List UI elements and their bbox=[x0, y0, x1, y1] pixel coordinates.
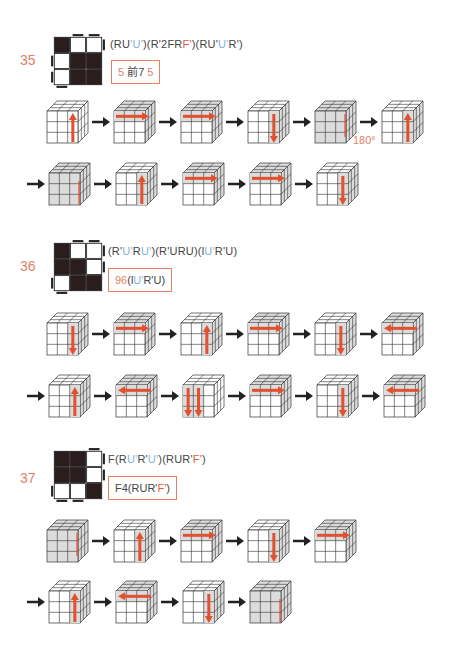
cube-step-icon bbox=[47, 578, 92, 626]
next-step-arrow-icon bbox=[159, 391, 181, 401]
formula-token: F(R bbox=[108, 453, 127, 465]
cube-step-icon bbox=[179, 98, 224, 146]
cube-step-icon bbox=[181, 578, 226, 626]
cube-step-icon bbox=[380, 98, 425, 146]
cube-step-icon bbox=[380, 310, 425, 358]
step-row bbox=[25, 578, 293, 626]
cube-step-icon bbox=[112, 98, 157, 146]
formula-token: U bbox=[132, 38, 140, 50]
case-number: 37 bbox=[20, 470, 36, 486]
cube-step-icon bbox=[382, 372, 427, 420]
next-step-arrow-icon bbox=[25, 597, 47, 607]
cube-step-icon bbox=[45, 310, 90, 358]
formula-token: R'U) bbox=[215, 245, 237, 257]
next-step-arrow-icon bbox=[157, 329, 179, 339]
cube-step-icon bbox=[246, 98, 291, 146]
formula-token: F' bbox=[157, 482, 166, 494]
formula-token: U' bbox=[204, 245, 214, 257]
algorithm-formula: (RU'U')(R'2FRF')(RU'U'R') bbox=[110, 38, 243, 50]
cube-step-icon bbox=[313, 517, 358, 565]
next-step-arrow-icon bbox=[224, 329, 246, 339]
formula-token: 96 bbox=[115, 274, 127, 286]
next-step-arrow-icon bbox=[92, 179, 114, 189]
case-number: 36 bbox=[20, 258, 36, 274]
next-step-arrow-icon bbox=[90, 536, 112, 546]
fingertrick-hint: F4(RUR'F') bbox=[108, 476, 177, 500]
case-number: 35 bbox=[20, 52, 36, 68]
cube-step-icon bbox=[248, 160, 293, 208]
cube-step-icon bbox=[179, 310, 224, 358]
formula-token: )(RU' bbox=[192, 38, 218, 50]
next-step-arrow-icon bbox=[25, 391, 47, 401]
cube-step-icon bbox=[248, 578, 293, 626]
cube-step-icon bbox=[114, 160, 159, 208]
oll-pattern-icon bbox=[50, 33, 106, 93]
cube-step-icon bbox=[179, 517, 224, 565]
formula-token: (R' bbox=[108, 245, 122, 257]
next-step-arrow-icon bbox=[25, 179, 47, 189]
next-step-arrow-icon bbox=[226, 179, 248, 189]
cube-step-icon bbox=[47, 160, 92, 208]
step-row: 180° bbox=[45, 98, 425, 146]
cube-step-icon: 180° bbox=[313, 98, 358, 146]
step-row bbox=[45, 310, 425, 358]
cube-step-icon bbox=[112, 517, 157, 565]
next-step-arrow-icon bbox=[92, 597, 114, 607]
cube-step-icon bbox=[45, 517, 90, 565]
step-row bbox=[45, 517, 358, 565]
formula-token: R') bbox=[229, 38, 243, 50]
formula-token: U' bbox=[127, 453, 137, 465]
next-step-arrow-icon bbox=[224, 117, 246, 127]
fingertrick-hint: 5 前7 5 bbox=[111, 60, 160, 84]
formula-token: ) bbox=[166, 482, 170, 494]
rotation-label: 180° bbox=[353, 134, 376, 146]
formula-token: ) bbox=[202, 453, 206, 465]
formula-token: U' bbox=[122, 245, 132, 257]
algorithm-formula: F(RU'R'U')(RUR'F') bbox=[108, 453, 206, 465]
next-step-arrow-icon bbox=[226, 597, 248, 607]
next-step-arrow-icon bbox=[360, 391, 382, 401]
formula-token: F4(RUR' bbox=[115, 482, 157, 494]
formula-token: (RU bbox=[110, 38, 130, 50]
formula-token: U bbox=[218, 38, 226, 50]
cube-step-icon bbox=[45, 98, 90, 146]
next-step-arrow-icon bbox=[90, 329, 112, 339]
formula-token: F' bbox=[193, 453, 202, 465]
oll-pattern-icon bbox=[50, 447, 106, 507]
algorithm-formula: (R'U'RU')(R'URU)(lU'R'U) bbox=[108, 245, 237, 257]
next-step-arrow-icon bbox=[157, 117, 179, 127]
cube-step-icon bbox=[246, 517, 291, 565]
next-step-arrow-icon bbox=[92, 391, 114, 401]
cube-step-icon bbox=[248, 372, 293, 420]
formula-token: )(R'2FR bbox=[143, 38, 183, 50]
formula-token: )(RUR' bbox=[158, 453, 192, 465]
next-step-arrow-icon bbox=[291, 117, 313, 127]
next-step-arrow-icon bbox=[291, 329, 313, 339]
cube-step-icon bbox=[112, 310, 157, 358]
cube-step-icon bbox=[114, 578, 159, 626]
next-step-arrow-icon bbox=[159, 597, 181, 607]
step-row bbox=[25, 160, 360, 208]
step-row bbox=[25, 372, 427, 420]
next-step-arrow-icon bbox=[159, 179, 181, 189]
formula-token: U' bbox=[133, 274, 143, 286]
next-step-arrow-icon bbox=[358, 117, 380, 127]
formula-token: R'U) bbox=[143, 274, 165, 286]
next-step-arrow-icon bbox=[293, 179, 315, 189]
next-step-arrow-icon bbox=[293, 391, 315, 401]
next-step-arrow-icon bbox=[226, 391, 248, 401]
formula-token: R bbox=[133, 245, 141, 257]
next-step-arrow-icon bbox=[224, 536, 246, 546]
cube-step-icon bbox=[114, 372, 159, 420]
cube-step-icon bbox=[315, 372, 360, 420]
cube-step-icon bbox=[181, 372, 226, 420]
formula-token: )(R'URU)(l bbox=[151, 245, 204, 257]
cube-step-icon bbox=[181, 160, 226, 208]
formula-token: U' bbox=[141, 245, 151, 257]
fingertrick-hint: 96(lU'R'U) bbox=[108, 268, 172, 292]
formula-token: 前7 bbox=[124, 66, 147, 78]
cube-step-icon bbox=[47, 372, 92, 420]
formula-token: U' bbox=[148, 453, 158, 465]
next-step-arrow-icon bbox=[358, 329, 380, 339]
next-step-arrow-icon bbox=[157, 536, 179, 546]
